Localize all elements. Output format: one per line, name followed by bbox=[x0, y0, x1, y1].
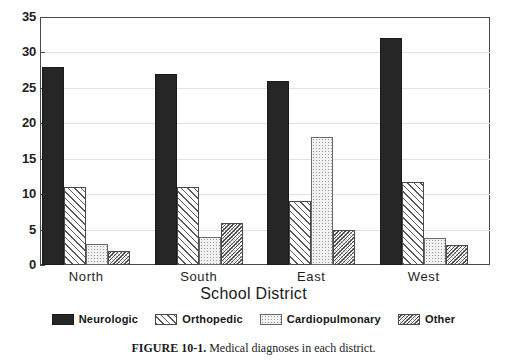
y-axis-tick-label: 25 bbox=[2, 80, 36, 95]
y-axis-tick-label: 35 bbox=[2, 9, 36, 24]
bar bbox=[199, 237, 221, 265]
bar bbox=[267, 81, 289, 265]
bar-group bbox=[380, 17, 468, 265]
bar bbox=[380, 38, 402, 265]
bar bbox=[311, 137, 333, 265]
legend-label: Cardiopulmonary bbox=[287, 313, 381, 325]
x-axis-category-label: East bbox=[247, 269, 375, 284]
bar bbox=[289, 201, 311, 265]
bar bbox=[177, 187, 199, 265]
bar bbox=[333, 230, 355, 265]
legend-swatch-icon bbox=[52, 314, 74, 325]
bar-group bbox=[267, 17, 355, 265]
legend-swatch-icon bbox=[155, 314, 177, 325]
legend-swatch-icon bbox=[260, 314, 282, 325]
legend-item: Cardiopulmonary bbox=[260, 313, 381, 325]
bar-group bbox=[155, 17, 243, 265]
legend-label: Orthopedic bbox=[182, 313, 243, 325]
caption-description: Medical diagnoses in each district. bbox=[209, 341, 375, 355]
y-axis-tick-label: 10 bbox=[2, 186, 36, 201]
bar bbox=[424, 238, 446, 265]
bar bbox=[64, 187, 86, 265]
chart-legend: NeurologicOrthopedicCardiopulmonaryOther bbox=[0, 313, 507, 325]
legend-swatch-icon bbox=[398, 314, 420, 325]
bar bbox=[108, 251, 130, 265]
legend-label: Neurologic bbox=[79, 313, 138, 325]
x-axis-title: School District bbox=[0, 285, 507, 303]
bar-series-container bbox=[40, 17, 490, 265]
y-axis-tick-label: 15 bbox=[2, 151, 36, 166]
legend-item: Other bbox=[398, 313, 455, 325]
figure-container: 05101520253035 NorthSouthEastWest School… bbox=[0, 0, 507, 361]
bar bbox=[446, 245, 468, 265]
x-axis-category-label: West bbox=[360, 269, 488, 284]
bar bbox=[221, 223, 243, 266]
y-axis-tick-mark bbox=[40, 265, 45, 266]
bar-group bbox=[42, 17, 130, 265]
figure-caption: FIGURE 10-1. Medical diagnoses in each d… bbox=[0, 341, 507, 356]
y-axis-tick-label: 20 bbox=[2, 115, 36, 130]
bar bbox=[42, 67, 64, 265]
x-axis-category-label: South bbox=[135, 269, 263, 284]
caption-figure-number: FIGURE 10-1. bbox=[132, 341, 207, 355]
bar bbox=[155, 74, 177, 265]
legend-item: Neurologic bbox=[52, 313, 138, 325]
legend-label: Other bbox=[425, 313, 455, 325]
bar bbox=[86, 244, 108, 265]
bar bbox=[402, 182, 424, 265]
y-axis-tick-label: 30 bbox=[2, 44, 36, 59]
y-axis-tick-label: 5 bbox=[2, 222, 36, 237]
x-axis-category-label: North bbox=[22, 269, 150, 284]
legend-item: Orthopedic bbox=[155, 313, 243, 325]
plot-area: 05101520253035 bbox=[40, 17, 490, 265]
